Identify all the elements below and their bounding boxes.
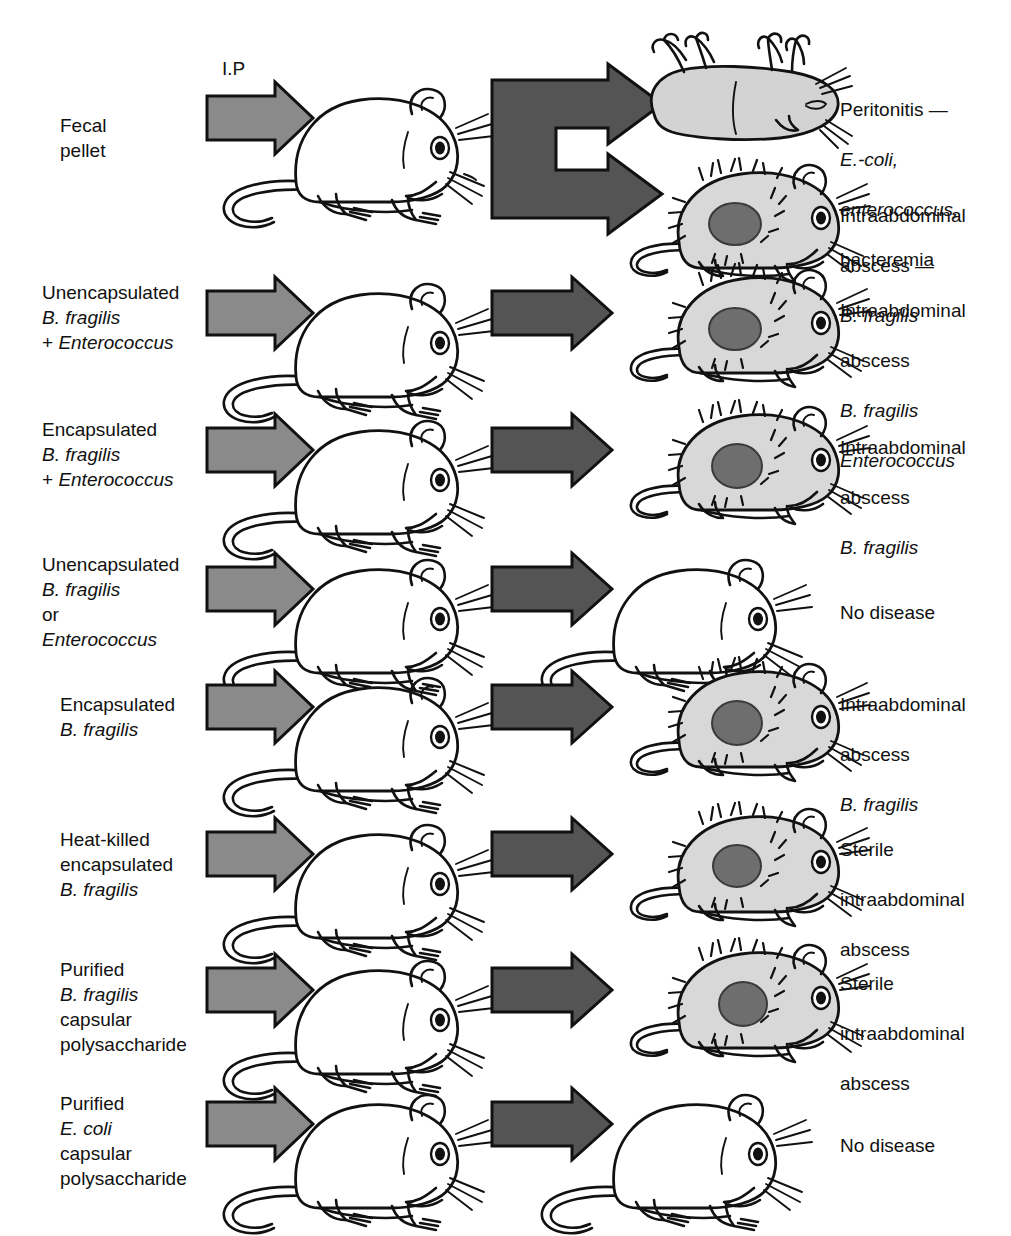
outcome-line: Intraabdominal <box>840 435 1011 460</box>
outcome-line: No disease <box>840 600 1011 625</box>
row-encapsulated-plus-entero: EncapsulatedB. fragilis+ Enterococcus <box>0 392 1011 527</box>
mouse-healthy <box>200 1068 500 1236</box>
injection-arrow-right <box>490 410 615 490</box>
outcome-line: abscess <box>840 742 1011 767</box>
outcome-label-no-disease: No disease <box>840 575 1011 650</box>
mouse-abscess <box>625 930 870 1055</box>
outcome-line: Intraabdominal <box>840 298 1011 323</box>
outcome-line: abscess <box>840 485 1011 510</box>
outcome-line: Sterile <box>840 837 1011 862</box>
injection-arrow-right <box>490 950 615 1030</box>
row-purified-bf-polysaccharide: PurifiedB. fragiliscapsularpolysaccharid… <box>0 932 1011 1067</box>
mouse-abscess <box>625 649 870 774</box>
outcome-line: intraabdominal <box>840 1021 1011 1046</box>
experiment-flow-diagram: I.P Fecal pellet <box>0 0 1011 1236</box>
mouse-abscess <box>625 392 870 517</box>
injection-arrow-right <box>490 667 615 747</box>
row-unencapsulated-or-entero: UnencapsulatedB. fragilisorEnterococcus <box>0 527 1011 667</box>
injection-arrow-right <box>490 814 615 894</box>
outcome-line: abscess <box>840 348 1011 373</box>
mouse-healthy <box>200 62 500 242</box>
row-fecal-pellet: Fecal pellet <box>0 0 1011 255</box>
outcome-line: Intraabdominal <box>840 203 1011 228</box>
mouse-dead <box>640 28 870 158</box>
row-encapsulated: EncapsulatedB. fragilis <box>0 667 1011 802</box>
injection-arrow-right <box>490 273 615 353</box>
outcome-label-no-disease: No disease <box>840 1108 1011 1183</box>
outcome-line: No disease <box>840 1133 1011 1158</box>
outcome-line: intraabdominal <box>840 887 1011 912</box>
mouse-healthy <box>518 1068 818 1236</box>
row-unencapsulated-plus-entero: UnencapsulatedB. fragilis+ Enterococcus <box>0 255 1011 390</box>
outcome-line: Peritonitis — <box>840 97 1011 122</box>
row-purified-ecoli-polysaccharide: PurifiedE. colicapsularpolysaccharide <box>0 1066 1011 1206</box>
mouse-abscess <box>625 794 870 919</box>
outcome-line: Intraabdominal <box>840 692 1011 717</box>
outcome-line: Sterile <box>840 971 1011 996</box>
row-heat-killed: Heat-killedencapsulatedB. fragilis <box>0 802 1011 937</box>
mouse-abscess <box>625 255 870 380</box>
